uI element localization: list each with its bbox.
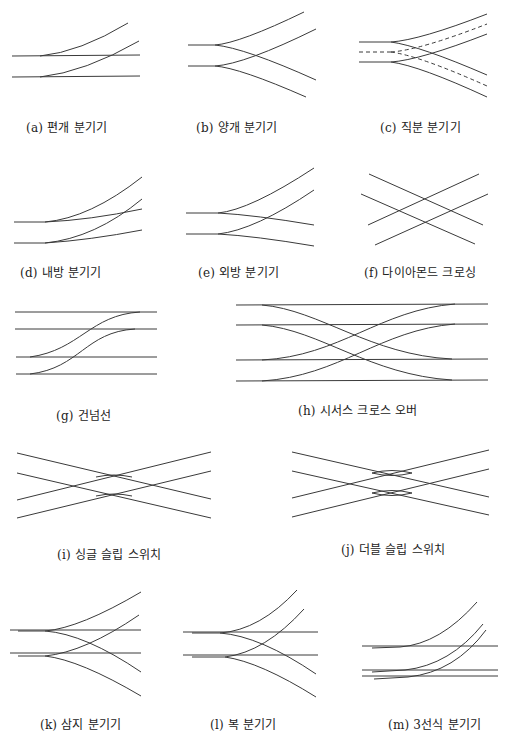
branch-up-1 <box>45 592 141 631</box>
turnout-diagram-canvas <box>0 0 511 755</box>
panel-f-diamond-crossing <box>361 174 488 245</box>
panel-i-single-slip-switch <box>17 452 211 518</box>
branch-up-2 <box>225 609 304 657</box>
diverging-upper <box>45 177 142 222</box>
track-2-rail-a <box>368 174 479 225</box>
crossover-rail-1 <box>30 312 140 357</box>
centerline-up <box>391 24 487 52</box>
branch-up-1 <box>220 590 297 633</box>
panel-m-three-rail-turnout <box>362 602 498 679</box>
track-2-rail-b <box>292 469 489 517</box>
panel-g-crossover <box>15 312 157 374</box>
branch-down-1 <box>220 633 316 674</box>
caption-l: (l) 복 분기기 <box>210 715 277 732</box>
branch-down-1 <box>391 42 487 75</box>
branch-up-2 <box>391 34 487 62</box>
caption-h: (h) 시서스 크로스 오버 <box>298 401 417 418</box>
branch-up-1 <box>215 12 304 45</box>
branch-down-1 <box>218 213 314 225</box>
caption-i: (i) 싱글 슬립 스위치 <box>57 545 161 562</box>
branch-down-2 <box>218 234 314 246</box>
panel-b-double-sided-turnout <box>188 12 316 97</box>
branch-down-2 <box>215 66 306 97</box>
caption-e: (e) 외방 분기기 <box>198 263 279 280</box>
caption-b: (b) 양개 분기기 <box>196 118 278 135</box>
lead-rail-upper <box>372 647 400 648</box>
panel-d-inner-curve-turnout <box>14 177 142 243</box>
caption-a: (a) 편개 분기기 <box>26 118 107 135</box>
panel-e-outer-curve-turnout <box>186 168 314 246</box>
caption-j: (j) 더블 슬립 스위치 <box>341 540 445 557</box>
panel-c-split-turnout <box>359 14 487 97</box>
caption-k: (k) 삼지 분기기 <box>40 715 121 732</box>
panel-k-three-way-turnout <box>10 592 141 696</box>
track-2-rail-a <box>17 452 211 500</box>
track-1-rail-a <box>369 174 483 225</box>
cross-rail-d <box>262 324 455 381</box>
cross-rail-c <box>262 304 455 360</box>
panel-j-double-slip-switch <box>292 450 489 517</box>
caption-f: (f) 다이아몬드 크로싱 <box>364 263 476 280</box>
branch-up-2 <box>45 615 139 656</box>
panel-h-scissors-crossover <box>236 304 488 381</box>
lead-rail-lower <box>374 677 408 679</box>
branch-down-1 <box>45 631 141 672</box>
cross-rail-b <box>262 325 452 380</box>
branch-down-1 <box>215 45 316 80</box>
caption-g: (g) 건넘선 <box>56 406 111 423</box>
branch-down-2 <box>45 656 141 696</box>
cross-rail-a <box>262 305 452 359</box>
panel-a-simple-turnout <box>12 23 140 77</box>
crossover-rail-2 <box>30 329 135 374</box>
caption-c: (c) 직분 분기기 <box>380 118 461 135</box>
diverging-rail-upper <box>400 602 477 647</box>
main-rail-upper <box>12 55 140 56</box>
branch-down-2 <box>225 657 316 697</box>
caption-d: (d) 내방 분기기 <box>20 263 102 280</box>
slip-rail-upper-top <box>372 471 412 474</box>
caption-m: (m) 3선식 분기기 <box>388 715 481 732</box>
diverging-rail-upper <box>40 23 128 56</box>
main-rail-lower <box>12 76 140 77</box>
panel-l-tandem-turnout <box>183 590 318 697</box>
branch-up-1 <box>218 168 314 213</box>
diverging-rail-lower <box>40 41 139 77</box>
branch-up-1 <box>391 14 487 42</box>
